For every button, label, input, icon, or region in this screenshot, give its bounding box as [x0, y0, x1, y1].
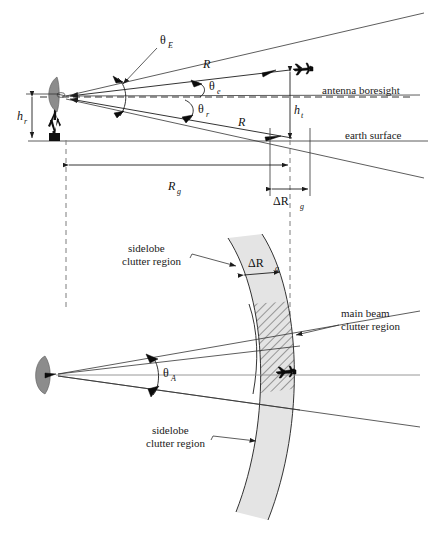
theta-E-arc-arrow-top: [113, 76, 123, 83]
theta-e-sub: e: [217, 87, 221, 96]
reflected-arrowhead-icon: [265, 136, 281, 141]
radar-height-label: h: [17, 109, 23, 123]
sidelobe-bottom-label-line1: sidelobe: [152, 424, 189, 436]
earth-surface-label: earth surface: [345, 129, 402, 141]
radar-height-sub: r: [24, 117, 28, 126]
range-to-target-line: [70, 70, 290, 96]
aircraft-icon: [293, 63, 313, 75]
dish-feed-icon-plan: [45, 373, 56, 378]
theta-E-label: θ: [160, 33, 166, 47]
range-resolution-label-plan: ΔR: [248, 256, 264, 270]
range-upper-label: R: [202, 57, 211, 71]
sidelobe-top-label-line1: sidelobe: [128, 242, 165, 254]
mainbeam-leader: [296, 325, 339, 335]
theta-r-arrow: [182, 115, 193, 123]
range-arrowhead-icon: [262, 70, 276, 77]
antenna-boresight-label: antenna boresight: [322, 84, 400, 96]
theta-A-arrow-upper: [146, 354, 158, 363]
ground-range-label: R: [167, 179, 176, 193]
theta-A-arrow-lower: [148, 386, 159, 397]
theta-e-label: θ: [209, 79, 215, 93]
sidelobe-bottom-leader: [211, 436, 256, 441]
mainbeam-label-line2: clutter region: [341, 320, 400, 332]
theta-A-label: θ: [163, 366, 169, 380]
theta-r-sub: r: [206, 110, 210, 119]
sidelobe-bottom-label-line2: clutter region: [146, 437, 205, 449]
range-lower-label: R: [237, 115, 246, 129]
range-resolution-sub: g: [300, 202, 304, 211]
theta-E-arc-arrow-bottom: [114, 111, 124, 118]
range-resolution-sub-plan: g: [275, 264, 279, 273]
theta-A-sub: A: [170, 374, 176, 383]
range-resolution-label: ΔR: [273, 194, 289, 208]
target-height-sub: t: [301, 111, 304, 120]
theta-r-label: θ: [198, 102, 204, 116]
theta-E-sub: E: [167, 41, 173, 50]
target-height-label: h: [294, 103, 300, 117]
lower-plan-view-diagram: θ A ΔR g sidelobe clutter region sidelob…: [36, 234, 420, 520]
ground-range-sub: g: [177, 187, 181, 196]
upper-elevation-diagram: earth surface antenna boresight h r: [17, 13, 428, 322]
mainbeam-label-line1: main beam: [341, 307, 390, 319]
sidelobe-top-label-line2: clutter region: [122, 255, 181, 267]
radar-clutter-geometry-figure: earth surface antenna boresight h r: [0, 0, 431, 535]
range-reflected-line: [70, 99, 292, 138]
sidelobe-top-leader: [190, 254, 236, 266]
